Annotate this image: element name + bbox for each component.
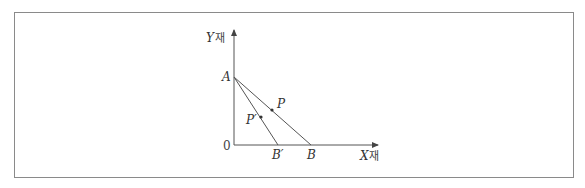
budget-line-diagram: Y 재 X 재 0 A B B′ P P′: [0, 0, 585, 188]
point-B-label: B: [306, 148, 316, 162]
point-B-prime-label: B′: [271, 148, 284, 162]
x-axis-label-suffix: 재: [369, 150, 379, 163]
x-axis-label-var: X: [359, 149, 369, 163]
point-P-dot: [270, 108, 273, 111]
point-P-label: P: [276, 97, 286, 111]
y-axis-label-suffix: 재: [215, 32, 225, 45]
point-P-prime-dot: [259, 115, 262, 118]
y-axis-label-var: Y: [206, 31, 215, 45]
point-P-prime-label: P′: [245, 113, 257, 127]
origin-label: 0: [223, 139, 231, 153]
point-A-label: A: [221, 70, 231, 84]
